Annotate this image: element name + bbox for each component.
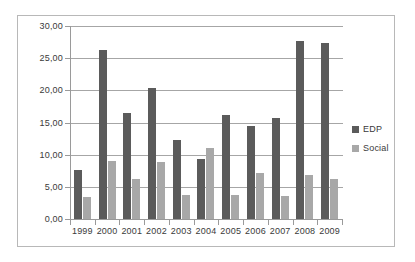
bar-edp-1999	[74, 170, 82, 219]
x-axis-tick	[293, 220, 294, 225]
y-axis-tick	[65, 26, 70, 27]
bar-social-2000	[108, 161, 116, 219]
x-axis-tick	[268, 220, 269, 225]
bar-social-2001	[132, 179, 140, 219]
bar-group	[119, 26, 144, 219]
bar-edp-2000	[99, 50, 107, 219]
bar-edp-2002	[148, 88, 156, 219]
x-axis-tick	[194, 220, 195, 225]
bar-group	[194, 26, 219, 219]
x-axis-tick-label: 2002	[146, 226, 167, 236]
x-axis-tick	[70, 220, 71, 225]
x-axis-tick-label: 2001	[121, 226, 142, 236]
legend-swatch-social	[352, 145, 359, 152]
x-axis-tick-label: 2008	[294, 226, 315, 236]
bar-edp-2007	[272, 118, 280, 219]
bar-edp-2004	[197, 159, 205, 219]
bar-social-2008	[305, 175, 313, 219]
x-axis-tick-label: 2004	[196, 226, 217, 236]
bar-group	[243, 26, 268, 219]
x-axis-tick-label: 2003	[171, 226, 192, 236]
bar-group	[218, 26, 243, 219]
bar-social-2003	[182, 195, 190, 219]
bar-edp-2003	[173, 140, 181, 219]
legend-item-edp: EDP	[352, 124, 408, 134]
bar-group	[144, 26, 169, 219]
x-axis-tick-label: 2006	[245, 226, 266, 236]
y-axis-tick	[65, 58, 70, 59]
y-axis-tick	[65, 123, 70, 124]
plot-area	[70, 26, 342, 219]
x-axis-tick	[218, 220, 219, 225]
bar-social-2005	[231, 195, 239, 219]
y-axis-tick	[65, 219, 70, 220]
bar-edp-2005	[222, 115, 230, 219]
x-axis-tick-label: 2009	[319, 226, 340, 236]
bar-social-2006	[256, 173, 264, 219]
bar-group	[317, 26, 342, 219]
x-axis-tick	[342, 220, 343, 225]
bar-social-1999	[83, 197, 91, 219]
x-axis-tick	[169, 220, 170, 225]
bar-group	[293, 26, 318, 219]
legend-swatch-edp	[352, 126, 359, 133]
bar-group	[268, 26, 293, 219]
chart-legend: EDP Social	[352, 124, 408, 162]
x-axis-tick	[119, 220, 120, 225]
x-axis-tick	[144, 220, 145, 225]
bar-social-2007	[281, 196, 289, 219]
y-axis-tick	[65, 90, 70, 91]
x-axis-labels: 1999200020012002200320042005200620072008…	[70, 226, 343, 240]
x-axis-tick-label: 2005	[220, 226, 241, 236]
x-axis-tick-label: 2000	[97, 226, 118, 236]
bar-edp-2008	[296, 41, 304, 219]
bar-group	[70, 26, 95, 219]
bar-social-2009	[330, 179, 338, 219]
legend-label-edp: EDP	[363, 124, 382, 134]
bars-layer	[70, 26, 342, 219]
legend-label-social: Social	[363, 143, 389, 153]
bar-group	[169, 26, 194, 219]
bar-edp-2009	[321, 43, 329, 219]
bar-edp-2006	[247, 126, 255, 219]
x-axis-tick-label: 1999	[72, 226, 93, 236]
x-axis-tick	[243, 220, 244, 225]
y-axis-tick	[65, 155, 70, 156]
bar-social-2002	[157, 162, 165, 219]
x-axis-tick-label: 2007	[270, 226, 291, 236]
x-axis-tick	[95, 220, 96, 225]
bar-edp-2001	[123, 113, 131, 219]
x-axis-ticks	[70, 220, 343, 225]
bar-social-2004	[206, 148, 214, 219]
legend-item-social: Social	[352, 143, 408, 153]
bar-chart: 0,005,0010,0015,0020,0025,0030,00 199920…	[0, 0, 415, 262]
chart-plot-frame: 0,005,0010,0015,0020,0025,0030,00 199920…	[17, 15, 395, 247]
x-axis-tick	[317, 220, 318, 225]
bar-group	[95, 26, 120, 219]
y-axis-tick	[65, 187, 70, 188]
